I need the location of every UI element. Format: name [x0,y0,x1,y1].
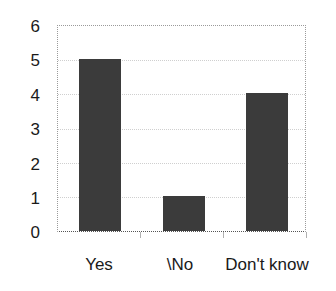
x-label-dont-know: Don't know [212,256,322,274]
bar-chart: 6 5 4 3 2 1 0 Yes \No Don't know [0,0,336,291]
x-label-yes: Yes [78,256,120,274]
bar-dont-know [246,93,288,231]
x-tick [306,232,307,238]
y-tick-label: 2 [16,156,40,173]
bar-no [163,196,205,231]
plot-area [57,25,306,232]
x-tick [140,232,141,238]
y-tick-label: 3 [16,121,40,138]
y-tick-label: 4 [16,87,40,104]
x-tick [223,232,224,238]
y-tick-label: 1 [16,190,40,207]
y-tick-label: 0 [16,224,40,241]
x-label-no: \No [160,256,200,274]
bar-yes [79,59,121,231]
y-tick-label: 5 [16,52,40,69]
y-tick-label: 6 [16,18,40,35]
